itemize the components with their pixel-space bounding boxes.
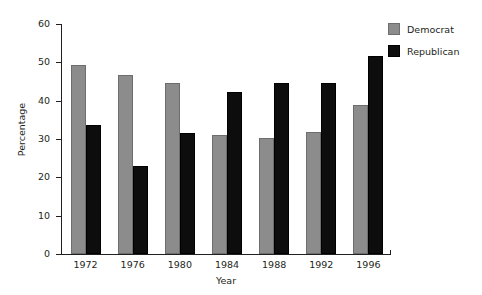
legend-item-democrat: Democrat [388,18,482,40]
republican-swatch-icon [388,45,400,57]
y-axis-tick [56,216,61,217]
x-axis-tick-label: 1996 [338,259,398,270]
x-axis-line [61,254,391,255]
y-axis-tick [56,254,61,255]
chart-legend: Democrat Republican [388,18,482,62]
y-axis-tick-label: 20 [10,172,50,182]
democrat-swatch-icon [388,23,400,35]
bar-chart: 0102030405060 Percentage 197219761980198… [0,0,482,295]
bar-democrat-1988 [259,138,274,254]
x-axis-title: Year [0,275,452,286]
legend-label-democrat: Democrat [407,24,454,35]
bar-democrat-1992 [306,132,321,254]
y-axis-tick-label: 60 [10,19,50,29]
legend-item-republican: Republican [388,40,482,62]
bar-democrat-1976 [118,75,133,254]
bar-republican-1996 [368,56,383,254]
bar-republican-1976 [133,166,148,254]
y-axis-tick-label: 0 [10,249,50,259]
bar-republican-1972 [86,125,101,254]
bar-democrat-1984 [212,135,227,254]
y-axis-tick [56,24,61,25]
bar-democrat-1972 [71,65,86,254]
bar-republican-1988 [274,83,289,254]
y-axis-tick [56,62,61,63]
y-axis-tick [56,139,61,140]
y-axis-tick-label: 50 [10,57,50,67]
bar-democrat-1980 [165,83,180,254]
legend-label-republican: Republican [407,46,459,57]
y-axis-title: Percentage [16,90,27,170]
y-axis-tick [56,101,61,102]
bar-democrat-1996 [353,105,368,254]
bar-republican-1984 [227,92,242,254]
plot-area [62,24,392,254]
y-axis-tick-label: 10 [10,211,50,221]
bar-republican-1992 [321,83,336,254]
bar-republican-1980 [180,133,195,254]
y-axis-tick [56,177,61,178]
